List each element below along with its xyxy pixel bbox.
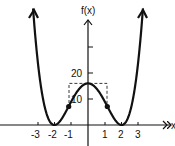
x-tick-label-neg3: -3 — [31, 129, 40, 140]
x-tick-label-neg2: -2 — [48, 129, 57, 140]
x-tick-label-1: 1 — [102, 129, 108, 140]
x-tick-label-neg1: -1 — [64, 129, 73, 140]
y-axis-label: f(x) — [81, 5, 95, 16]
inflection-point-right — [105, 104, 110, 109]
function-graph: f(x) 20 10 -3 -2 -1 1 2 3 x — [0, 0, 175, 146]
x-axis-label: x — [171, 120, 175, 131]
y-tick-label-10: 10 — [71, 94, 83, 105]
x-tick-label-3: 3 — [135, 129, 141, 140]
x-tick-label-2: 2 — [118, 129, 124, 140]
y-tick-label-20: 20 — [71, 68, 83, 79]
